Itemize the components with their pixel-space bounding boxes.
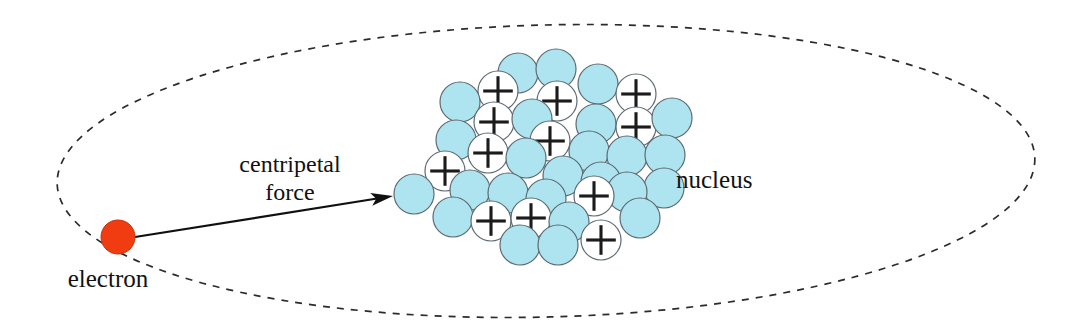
diagram-canvas: electron nucleus centripetal force: [0, 0, 1081, 330]
neutron-circle: [652, 98, 692, 138]
nucleus-cluster: [394, 49, 692, 265]
neutron-circle: [538, 225, 578, 265]
neutron-circle: [500, 225, 540, 265]
neutron-circle: [433, 197, 473, 237]
electron-particle: [101, 220, 135, 254]
electron-label: electron: [68, 265, 149, 292]
nucleus-label: nucleus: [676, 166, 752, 193]
centripetal-force-arrow: [135, 193, 393, 237]
neutron-circle: [620, 198, 660, 238]
neutron-circle: [506, 138, 546, 178]
neutron-circle: [440, 82, 480, 122]
neutron-circle: [578, 64, 618, 104]
neutron-circle: [394, 174, 434, 214]
force-arrow-shaft: [135, 199, 377, 237]
atom-diagram: electron nucleus centripetal force: [0, 0, 1081, 330]
centripetal-force-label-line2: force: [265, 179, 314, 205]
centripetal-force-label-line1: centripetal: [239, 151, 341, 177]
